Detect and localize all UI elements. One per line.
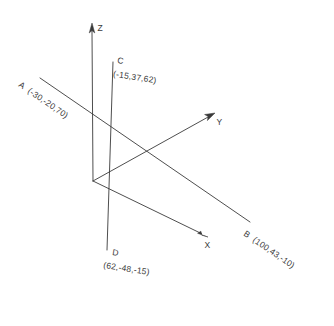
point-c-name: C xyxy=(117,55,125,66)
point-b-coords: (100,43,-10) xyxy=(251,235,297,271)
x-axis-arrow-icon xyxy=(198,231,208,237)
point-b-name: B xyxy=(242,228,253,240)
point-d-coords: (62,-48,-15) xyxy=(103,260,151,277)
coordinate-diagram: Z Y X A (-30,-20,70) B (100,43,-10) xyxy=(0,0,334,326)
z-axis-line xyxy=(92,30,93,181)
point-b-label-group: B (100,43,-10) xyxy=(242,228,297,270)
point-c-label-group: C (-15,37,62) xyxy=(113,55,160,86)
x-axis-label: X xyxy=(205,240,211,250)
point-a-name: A xyxy=(17,79,28,91)
segment-cd-group xyxy=(107,62,113,250)
point-c-coords: (-15,37,62) xyxy=(113,69,158,86)
axis-group: Z Y X xyxy=(89,23,222,250)
point-a-label-group: A (-30,-20,70) xyxy=(17,79,70,120)
segment-ab-group xyxy=(40,78,250,222)
y-axis-arrow-icon xyxy=(205,113,215,121)
z-axis-label: Z xyxy=(98,23,103,33)
point-d-name: D xyxy=(112,247,120,258)
y-axis-label: Y xyxy=(217,117,223,127)
point-a-coords: (-30,-20,70) xyxy=(26,86,70,121)
segment-cd-line xyxy=(107,62,113,250)
diagram-canvas: Z Y X A (-30,-20,70) B (100,43,-10) xyxy=(0,0,334,326)
point-d-label-group: D (62,-48,-15) xyxy=(103,246,153,277)
segment-ab-line xyxy=(40,78,250,222)
